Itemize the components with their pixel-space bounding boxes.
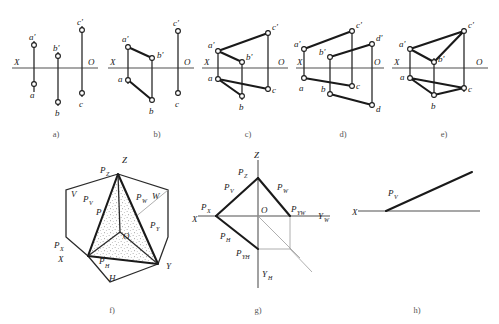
panel-f-label-pz-base: P	[99, 165, 106, 175]
panel-f-label-ph-sub: H	[104, 263, 110, 269]
panel-g-label-pyw-sub: YW	[297, 210, 306, 216]
panel-e-triangle-prime	[410, 31, 464, 62]
panel-a-axis-left-label: X	[13, 57, 20, 67]
panel-c-label-b-prime: b'	[246, 52, 254, 62]
panel-b-point-b	[150, 98, 155, 103]
panel-a-label-a-prime: a'	[29, 32, 37, 42]
panel-c-label-a-prime: a'	[208, 40, 216, 50]
panel-e: X O a' a b' b c' c e)	[392, 20, 488, 139]
panel-d-segment-bd	[330, 94, 372, 105]
panel-g-label-pv: P V	[223, 182, 235, 194]
panel-f-label-px: P X	[53, 240, 64, 252]
panel-e-caption: e)	[441, 129, 448, 139]
panel-f-label-pv: P V	[82, 194, 94, 206]
panel-d-label-d: d	[376, 104, 381, 114]
panel-g-label-pz: P Z	[237, 167, 248, 179]
panel-g-label-pyh: P YH	[235, 248, 250, 260]
panel-c-axis-right-label: O	[278, 57, 285, 67]
panel-c-label-b: b	[239, 102, 244, 112]
panel-e-point-a-prime	[408, 47, 413, 52]
panel-d-segment-ac-prime	[304, 31, 352, 49]
panel-c-point-a	[216, 77, 221, 82]
panel-d-axis-right-label: O	[374, 57, 381, 67]
panel-b-label-a-prime: a'	[122, 34, 130, 44]
panel-g-caption: g)	[254, 305, 261, 315]
panel-g-label-yw-sub: W	[324, 217, 330, 223]
panel-h-label-x: X	[351, 207, 358, 217]
panel-a-label-c: c	[79, 99, 83, 109]
panel-b-point-c	[176, 91, 181, 96]
panel-f-label-z: Z	[122, 155, 128, 165]
panel-a-label-a: a	[30, 90, 35, 100]
panel-h-label-pv-sub: V	[394, 194, 399, 200]
panel-b-point-c-prime	[176, 29, 181, 34]
panel-c-label-c: c	[272, 85, 276, 95]
panel-a-point-c-prime	[80, 28, 85, 33]
panel-g-label-px: P X	[200, 202, 211, 214]
panel-c-axis-left-label: X	[203, 57, 210, 67]
panel-b-point-a	[126, 78, 131, 83]
panel-g-label-pyw-base: P	[290, 204, 297, 214]
panel-e-point-b-prime	[432, 60, 437, 65]
panel-f-label-px-sub: X	[59, 246, 64, 252]
panel-g-label-x: X	[191, 214, 198, 224]
panel-c: X O a' a b' b c' c c)	[202, 22, 288, 139]
panel-g-label-yh-sub: H	[267, 275, 273, 281]
panel-f-label-py-sub: Y	[156, 226, 160, 232]
panel-f-label-pw-base: P	[135, 192, 142, 202]
panel-f-label-h: H	[108, 273, 116, 283]
panel-f-label-pw: P W	[135, 192, 148, 204]
panel-d-segment-bd-prime	[330, 44, 372, 57]
panel-c-point-c-prime	[266, 31, 271, 36]
panel-d-label-a-prime: a'	[294, 39, 302, 49]
panel-c-segment-ac-prime	[218, 33, 268, 51]
panel-b-segment-ab-prime	[128, 47, 152, 58]
panel-g-label-ph-sub: H	[225, 237, 231, 243]
panel-h-label-pv-base: P	[387, 188, 394, 198]
panel-e-label-b: b	[431, 101, 436, 111]
panel-f-label-py-base: P	[149, 220, 156, 230]
panel-d-label-c: c	[356, 81, 360, 91]
panel-a-caption: a)	[53, 129, 60, 139]
panel-d-label-c-prime: c'	[356, 20, 363, 30]
panel-e-label-a-prime: a'	[399, 39, 407, 49]
panel-a-label-c-prime: c'	[77, 17, 84, 27]
panel-c-caption: c)	[245, 129, 252, 139]
panel-f-label-px-base: P	[53, 240, 60, 250]
panel-a-point-b-prime	[56, 54, 61, 59]
panel-d-point-a-prime	[302, 47, 307, 52]
panel-c-point-c	[266, 87, 271, 92]
panel-f-label-v: V	[71, 189, 78, 199]
panel-g-label-pw-base: P	[276, 182, 283, 192]
panel-d-caption: d)	[339, 129, 346, 139]
panel-f-label-y: Y	[166, 261, 172, 271]
panel-c-point-b	[240, 94, 245, 99]
panel-f-label-pw-sub: W	[142, 198, 148, 204]
panel-g-label-pw-sub: W	[283, 188, 289, 194]
panel-f-label-py: P Y	[149, 220, 160, 232]
panel-g-label-px-base: P	[200, 202, 207, 212]
panel-b-label-a: a	[118, 74, 123, 84]
panel-b-axis-left-label: X	[109, 57, 116, 67]
panel-g-trace-pv	[216, 178, 258, 216]
panel-c-label-c-prime: c'	[272, 22, 279, 32]
panel-b-point-a-prime	[126, 45, 131, 50]
panel-g-label-pyh-base: P	[235, 248, 242, 258]
panel-a-label-b: b	[55, 108, 60, 118]
panel-h-trace-pv	[386, 172, 472, 211]
panel-g-label-ph-base: P	[219, 231, 226, 241]
panel-g-bisector-ext	[290, 249, 312, 272]
panel-b-label-c: c	[175, 99, 179, 109]
geometry-figure: X O a' a b' b c' c a) X O a' a	[0, 0, 499, 324]
panel-d-point-d-prime	[370, 42, 375, 47]
panel-c-point-a-prime	[216, 49, 221, 54]
panel-b-point-b-prime	[150, 56, 155, 61]
panel-c-segment-ab-prime	[218, 51, 242, 62]
figure-canvas: X O a' a b' b c' c a) X O a' a	[0, 0, 499, 324]
panel-b-label-c-prime: c'	[173, 18, 180, 28]
panel-d-label-b: b	[321, 84, 326, 94]
panel-a-axis-right-label: O	[88, 57, 95, 67]
panel-g-label-z: Z	[254, 150, 260, 160]
panel-a: X O a' a b' b c' c a)	[12, 17, 98, 139]
panel-h: X P V h)	[351, 172, 480, 315]
